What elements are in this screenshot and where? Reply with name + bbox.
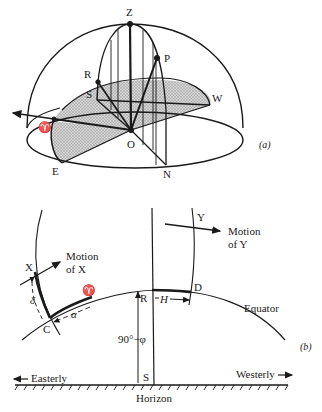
label-aries: ♈ [38,121,52,134]
label-motion-y-2: of Y [228,238,248,250]
celestial-sphere-figure: Z P R S W ♈ O E N (a) [0,0,322,412]
horizon-hatching [15,385,288,390]
label-pole: P [164,52,170,64]
label-d: D [194,281,202,293]
label-motion-y-1: Motion [228,225,261,237]
label-origin: O [127,138,135,150]
caption-b: (b) [300,341,312,353]
label-y: Y [197,211,205,223]
label-colatitude: 90°−φ [118,333,146,345]
label-easterly: Easterly [31,372,68,384]
label-motion-x-1: Motion [66,250,99,262]
label-c: C [43,323,50,335]
caption-a: (a) [259,139,271,151]
vernal-equinox-arrow [13,113,54,119]
label-r-b: R [140,292,148,304]
label-equator: Equator [244,302,279,314]
label-delta: δ [30,294,36,306]
label-alpha: α [71,308,77,320]
label-zenith: Z [126,6,133,18]
label-westerly: Westerly [236,368,275,380]
label-east: E [52,165,59,177]
zenith-line [130,24,131,130]
label-s-b: S [143,371,149,383]
label-north: N [163,168,171,180]
label-motion-x-2: of X [66,263,86,275]
label-s: S [86,88,92,100]
label-hour-angle: H [159,293,169,305]
label-aries-b: ♈ [82,284,96,297]
meridian-line [152,208,154,385]
label-west: W [212,92,223,104]
label-x: X [25,261,33,273]
label-horizon: Horizon [136,392,173,404]
label-r: R [84,68,92,80]
